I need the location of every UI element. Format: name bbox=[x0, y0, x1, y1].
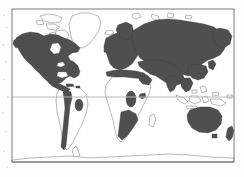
scan-speckle bbox=[3, 14, 5, 16]
scan-speckle bbox=[7, 96, 9, 98]
land-arctic-island bbox=[167, 13, 174, 18]
region-brazil-patch bbox=[75, 99, 83, 111]
world-map bbox=[0, 0, 244, 177]
scan-speckle bbox=[6, 27, 8, 28]
scan-speckle bbox=[2, 44, 5, 46]
scan-speckle bbox=[2, 112, 4, 114]
region-caribbean-island bbox=[76, 86, 80, 88]
land-island bbox=[192, 90, 197, 93]
region-tasmania bbox=[212, 134, 217, 138]
scan-speckle bbox=[5, 131, 7, 132]
region-central-africa-patch bbox=[126, 91, 136, 107]
world-distribution-figure bbox=[0, 0, 244, 177]
scan-speckle bbox=[5, 61, 7, 63]
scan-speckle bbox=[3, 79, 5, 80]
land-island bbox=[212, 92, 219, 96]
land-arctic-island bbox=[185, 15, 192, 19]
scan-speckle bbox=[3, 150, 5, 152]
scan-speckle bbox=[6, 166, 8, 168]
